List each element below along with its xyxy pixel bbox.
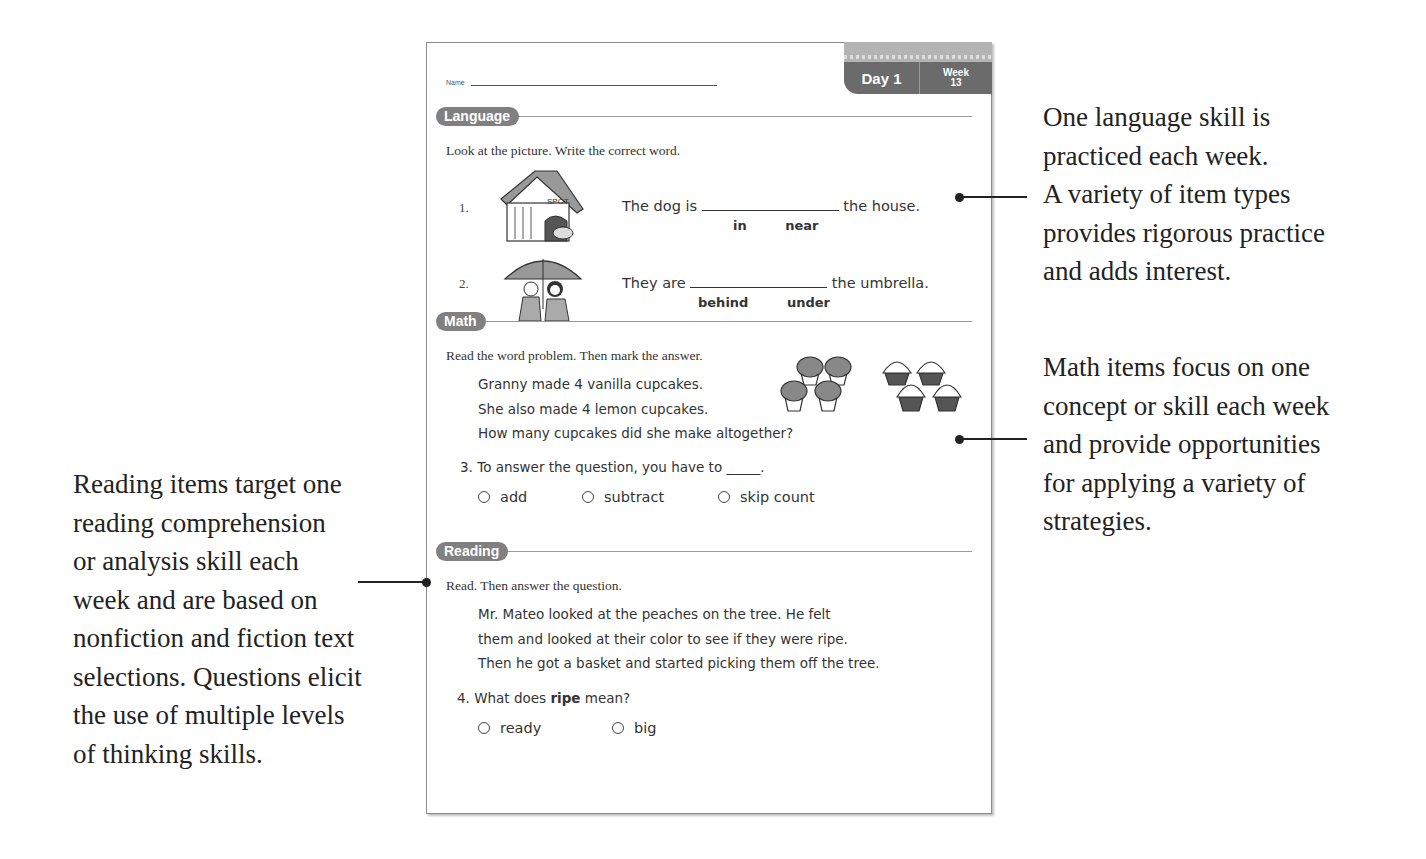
radio-circle-icon[interactable]	[582, 491, 594, 503]
language-item-2-choices: behind under	[698, 295, 864, 310]
section-title-math: Math	[436, 312, 486, 331]
reading-question-4: 4. What does ripe mean?	[457, 690, 630, 706]
callout-line-math	[959, 438, 1027, 440]
name-line[interactable]	[471, 79, 717, 86]
item-number: 1.	[459, 200, 469, 216]
language-item-2-sentence: They are the umbrella.	[622, 275, 929, 291]
language-instruction: Look at the picture. Write the correct w…	[446, 143, 680, 159]
radio-circle-icon[interactable]	[478, 491, 490, 503]
radio-circle-icon[interactable]	[478, 722, 490, 734]
svg-text:SPOT: SPOT	[547, 197, 569, 206]
item-number: 2.	[459, 276, 469, 292]
section-rule	[508, 551, 972, 552]
option-skip-count[interactable]: skip count	[718, 489, 815, 505]
callout-dot-reading	[422, 578, 431, 587]
reading-instruction: Read. Then answer the question.	[446, 578, 622, 594]
annotation-math: Math items focus on one concept or skill…	[1043, 348, 1329, 541]
choice-word: in	[733, 218, 747, 233]
doghouse-illustration: SPOT	[497, 169, 587, 245]
math-question-3: 3. To answer the question, you have to _…	[460, 459, 765, 475]
answer-blank-2[interactable]	[690, 287, 827, 288]
radio-circle-icon[interactable]	[718, 491, 730, 503]
worksheet-page: Name Day 1 Week 13 Language Look at the …	[426, 42, 992, 814]
option-add[interactable]: add	[478, 489, 582, 505]
reading-answer-options: ready big	[478, 720, 656, 736]
language-item-1-choices: in near	[733, 218, 853, 233]
option-subtract[interactable]: subtract	[582, 489, 718, 505]
name-label: Name	[446, 79, 465, 86]
choice-word: behind	[698, 295, 748, 310]
vanilla-cupcakes-icon	[777, 351, 863, 421]
day-week-tab: Day 1 Week 13	[844, 42, 992, 94]
week-label: Week 13	[920, 62, 992, 94]
lemon-cupcakes-icon	[879, 351, 969, 421]
language-item-1-sentence: The dog is the house.	[622, 198, 920, 214]
choice-word: near	[785, 218, 818, 233]
math-word-problem: Granny made 4 vanilla cupcakes. She also…	[478, 372, 793, 446]
week-number: 13	[950, 78, 961, 88]
callout-line-reading	[358, 581, 426, 583]
section-title-language: Language	[436, 107, 519, 126]
section-header-math: Math	[436, 311, 972, 331]
answer-blank-1[interactable]	[702, 210, 839, 211]
option-big[interactable]: big	[612, 720, 656, 736]
section-header-reading: Reading	[436, 541, 972, 561]
name-field[interactable]: Name	[446, 79, 717, 86]
choice-word: under	[787, 295, 830, 310]
section-rule	[486, 321, 972, 322]
section-header-language: Language	[436, 106, 972, 126]
math-answer-options: add subtract skip count	[478, 489, 815, 505]
day-label: Day 1	[844, 62, 920, 94]
callout-line-language	[959, 196, 1027, 198]
radio-circle-icon[interactable]	[612, 722, 624, 734]
math-instruction: Read the word problem. Then mark the ans…	[446, 348, 703, 364]
annotation-language: One language skill is practiced each wee…	[1043, 98, 1325, 291]
section-rule	[519, 116, 972, 117]
section-title-reading: Reading	[436, 542, 508, 561]
annotation-reading: Reading items target one reading compreh…	[73, 465, 362, 773]
tab-decoration	[844, 42, 992, 62]
reading-passage: Mr. Mateo looked at the peaches on the t…	[478, 602, 880, 676]
option-ready[interactable]: ready	[478, 720, 612, 736]
